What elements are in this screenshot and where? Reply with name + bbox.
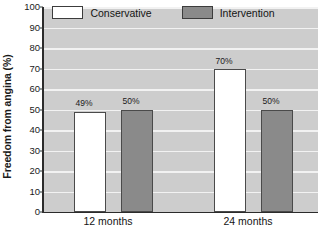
y-axis-tick-label: 40: [14, 125, 40, 135]
bar-value-label: 50%: [122, 97, 139, 106]
legend-swatch-conservative: [52, 6, 83, 19]
y-axis-tick-mark: [40, 191, 43, 192]
gridline: [43, 69, 318, 71]
legend-item-intervention[interactable]: Intervention: [182, 6, 275, 19]
gridline: [43, 28, 318, 30]
y-axis-tick-label: 90: [14, 23, 40, 33]
bar-intervention-24-months: [261, 110, 293, 213]
y-axis-tick-mark: [40, 109, 43, 110]
bar-intervention-12-months: [121, 110, 153, 213]
y-axis-tick-mark: [40, 68, 43, 69]
y-axis-tick-mark: [40, 171, 43, 172]
legend-item-conservative[interactable]: Conservative: [52, 6, 151, 19]
y-axis-tick-mark: [40, 89, 43, 90]
x-axis-category-label: 12 months: [83, 215, 132, 227]
bar-value-label: 50%: [262, 97, 279, 106]
legend-swatch-intervention: [182, 6, 213, 19]
bar-conservative-12-months: [74, 112, 106, 212]
y-axis-tick-label: 80: [14, 43, 40, 53]
y-axis-tick-label: 20: [14, 166, 40, 176]
bar-value-label: 70%: [215, 57, 232, 66]
chart-legend: ConservativeIntervention: [42, 3, 285, 22]
y-axis-tick-mark: [40, 27, 43, 28]
y-axis-tick-mark: [40, 48, 43, 49]
x-axis-line: [42, 212, 318, 214]
y-axis-tick-label: 70: [14, 64, 40, 74]
gridline: [43, 48, 318, 50]
y-axis-tick-label: 60: [14, 84, 40, 94]
bar-conservative-24-months: [214, 69, 246, 213]
y-axis-tick-mark: [40, 150, 43, 151]
y-axis-tick-label: 30: [14, 146, 40, 156]
y-axis-tick-labels: 0102030405060708090100: [14, 0, 40, 233]
y-axis-tick-mark: [40, 7, 43, 8]
y-axis-line: [42, 7, 44, 213]
bar-chart-figure: Freedom from angina (%) 0102030405060708…: [0, 0, 332, 233]
bar-value-label: 49%: [75, 99, 92, 108]
y-axis-tick-label: 10: [14, 187, 40, 197]
plot-area: [43, 7, 318, 212]
y-axis-tick-mark: [40, 212, 43, 213]
y-axis-title: Freedom from angina (%): [0, 0, 14, 233]
gridline: [43, 89, 318, 91]
y-axis-tick-label: 0: [14, 207, 40, 217]
y-axis-tick-label: 100: [14, 2, 40, 12]
legend-label: Intervention: [220, 7, 275, 19]
y-axis-tick-mark: [40, 130, 43, 131]
x-axis-category-label: 24 months: [223, 215, 272, 227]
legend-label: Conservative: [90, 7, 151, 19]
y-axis-tick-label: 50: [14, 105, 40, 115]
